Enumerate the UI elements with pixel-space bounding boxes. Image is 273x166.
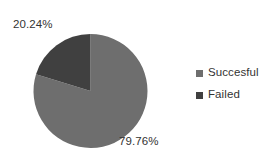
legend-label-succesful: Succesful <box>208 67 259 79</box>
plot-area: 20.24% 79.76% <box>0 0 180 166</box>
chart-legend: Succesful Failed <box>196 62 273 106</box>
legend-label-failed: Failed <box>208 89 240 101</box>
legend-swatch-icon-succesful <box>196 70 203 77</box>
legend-item-succesful[interactable]: Succesful <box>196 62 273 84</box>
pie-chart-figure: 20.24% 79.76% Succesful Failed <box>0 0 273 166</box>
data-label-failed: 20.24% <box>13 19 53 31</box>
legend-item-failed[interactable]: Failed <box>196 84 273 106</box>
pie-slices <box>34 34 148 148</box>
data-label-succesful: 79.76% <box>119 136 159 148</box>
legend-swatch-icon-failed <box>196 92 203 99</box>
